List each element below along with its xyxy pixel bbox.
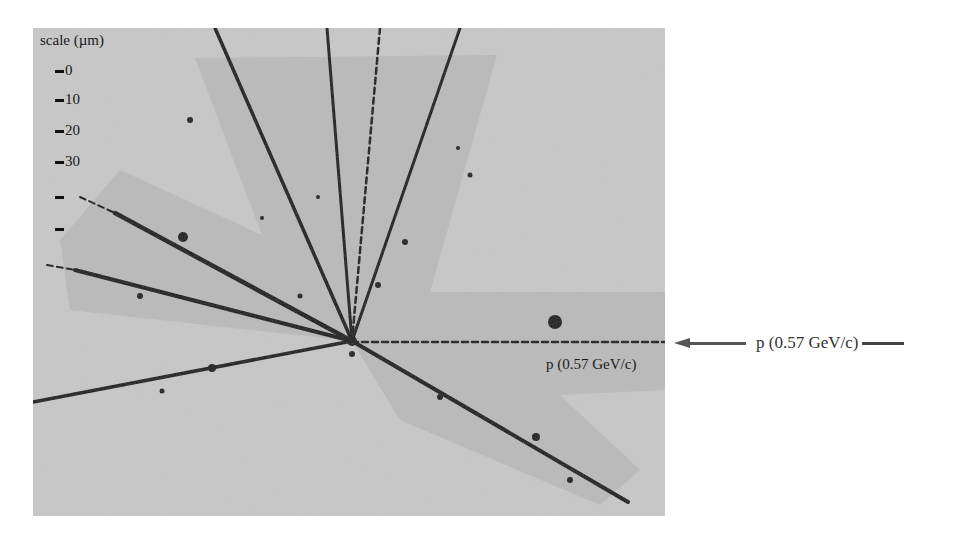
scale-mark: 10 — [55, 91, 80, 107]
emulsion-photograph — [0, 0, 966, 536]
scale-mark: 30 — [55, 153, 80, 169]
scale-tick — [55, 228, 64, 231]
scale-label: 10 — [65, 91, 80, 107]
arrow-left-icon — [674, 338, 690, 348]
scale-tick — [55, 196, 64, 199]
scale-mark — [55, 188, 65, 204]
scale-mark — [55, 220, 65, 236]
beam-label: p (0.57 GeV/c) — [756, 333, 858, 353]
in-photo-beam-label: p (0.57 GeV/c) — [546, 356, 636, 373]
trailing-line — [862, 342, 904, 345]
bubble-chamber-figure: scale (µm) 0102030 p (0.57 GeV/c) p (0.5… — [0, 0, 966, 536]
scale-title: scale (µm) — [40, 32, 104, 49]
scale-tick — [55, 70, 64, 73]
scale-tick — [55, 161, 64, 164]
scale-label: 30 — [65, 153, 80, 169]
scale-label: 0 — [65, 62, 73, 78]
grain-texture — [33, 28, 665, 516]
arrow-shaft — [690, 342, 746, 345]
beam-annotation: p (0.57 GeV/c) — [674, 333, 904, 353]
scale-label: 20 — [65, 122, 80, 138]
scale-tick — [55, 99, 64, 102]
scale-mark: 20 — [55, 122, 80, 138]
scale-tick — [55, 130, 64, 133]
scale-mark: 0 — [55, 62, 73, 78]
